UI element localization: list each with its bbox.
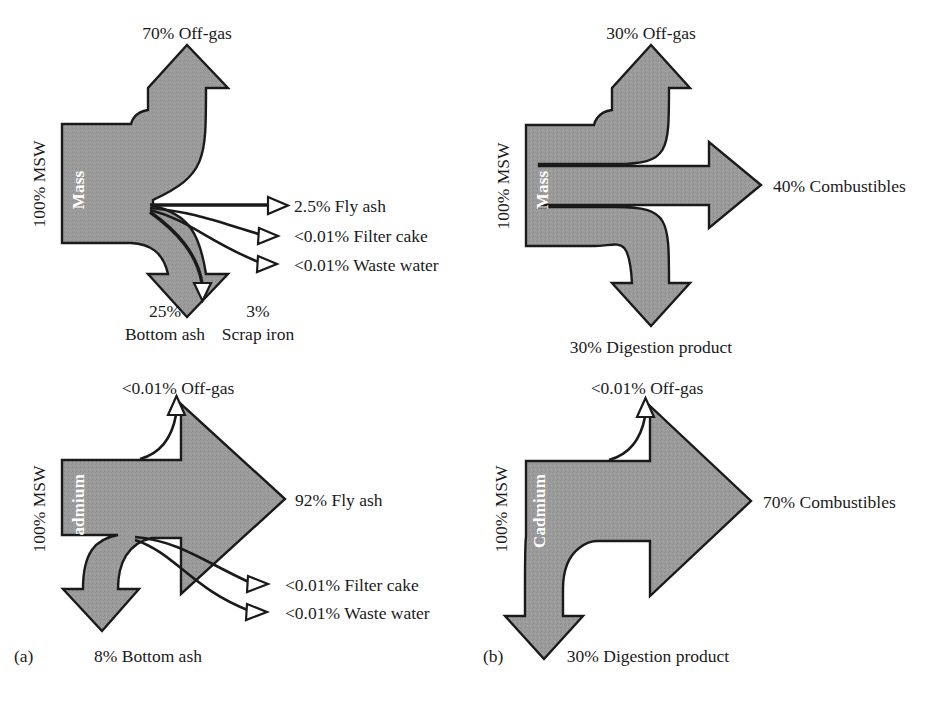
label-digestion-product: 30% Digestion product (570, 337, 732, 357)
inner-label-mass: Mass (69, 171, 88, 210)
cadmium-main-flow-shape (62, 404, 285, 631)
label-off-gas: <0.01% Off-gas (122, 378, 235, 398)
inner-label-mass: Mass (533, 171, 552, 210)
label-bottom-ash-value: 25% (149, 301, 181, 321)
inner-label-cadmium: Cadmium (69, 474, 88, 548)
label-waste-water: <0.01% Waste water (285, 603, 430, 623)
label-scrap-iron-value: 3% (246, 301, 269, 321)
label-combustibles: 40% Combustibles (773, 176, 906, 196)
label-digestion-product: 30% Digestion product (567, 646, 729, 666)
flow-diagram-cadmium-incineration: Cadmium 100% MSW <0.01% Off-gas 92% Fly … (0, 363, 474, 727)
subfigure-label-a: (a) (14, 646, 34, 666)
subfigure-label-b: (b) (483, 646, 504, 666)
flow-diagram-mass-incineration: Mass 100% MSW 70% Off-gas 2.5% Fly ash <… (0, 0, 474, 364)
label-combustibles: 70% Combustibles (763, 492, 896, 512)
label-waste-water: <0.01% Waste water (294, 255, 439, 275)
label-off-gas: 30% Off-gas (606, 23, 696, 43)
label-fly-ash: 2.5% Fly ash (294, 196, 386, 216)
label-filter-cake: <0.01% Filter cake (294, 226, 428, 246)
inner-label-cadmium: Cadmium (530, 474, 549, 548)
panel-mass-incineration: Mass 100% MSW 70% Off-gas 2.5% Fly ash <… (0, 0, 474, 364)
input-label-msw: 100% MSW (493, 142, 513, 229)
flow-diagram-cadmium-mbt: Cadmium 100% MSW <0.01% Off-gas 70% Comb… (473, 363, 947, 727)
panel-mass-mbt: Mass 100% MSW 30% Off-gas 40% Combustibl… (473, 0, 947, 364)
arrow-off-gas (140, 396, 185, 459)
panel-cadmium-mbt: Cadmium 100% MSW <0.01% Off-gas 70% Comb… (473, 363, 947, 727)
label-off-gas: 70% Off-gas (142, 23, 232, 43)
label-bottom-ash: 8% Bottom ash (94, 646, 202, 666)
flow-diagram-mass-mbt: Mass 100% MSW 30% Off-gas 40% Combustibl… (473, 0, 947, 364)
label-filter-cake: <0.01% Filter cake (285, 575, 419, 595)
label-scrap-iron-name: Scrap iron (222, 324, 295, 344)
arrow-off-gas (609, 398, 654, 460)
input-label-msw: 100% MSW (29, 465, 49, 552)
label-off-gas: <0.01% Off-gas (591, 378, 704, 398)
input-label-msw: 100% MSW (491, 465, 511, 552)
input-label-msw: 100% MSW (29, 140, 49, 227)
mass-mbt-flow-shape (526, 45, 761, 326)
label-bottom-ash-name: Bottom ash (125, 324, 205, 344)
label-fly-ash: 92% Fly ash (295, 490, 383, 510)
panel-cadmium-incineration: Cadmium 100% MSW <0.01% Off-gas 92% Fly … (0, 363, 474, 727)
